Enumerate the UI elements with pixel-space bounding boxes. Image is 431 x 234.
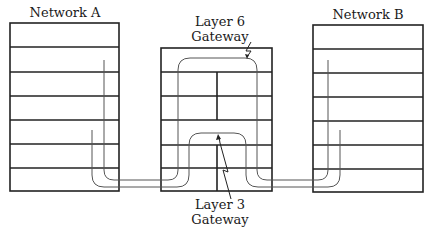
network-a-stack [10,23,119,191]
gateway-diagram [0,0,431,234]
layer6-path [104,58,328,180]
layer3-pointer-arrow-icon [216,134,231,199]
network-b-stack [313,25,423,192]
layer3-path [92,130,340,187]
layer6-pointer-arrow-icon [245,42,251,59]
